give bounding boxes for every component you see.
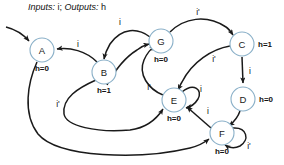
state-label-g: G xyxy=(157,36,164,47)
edge-c-to-e xyxy=(178,46,230,90)
edge-g-to-c xyxy=(170,19,233,35)
state-label-b: B xyxy=(101,67,107,78)
state-label-f: F xyxy=(219,128,225,139)
edge-label-c-to-d: i xyxy=(249,66,251,76)
edge-d-to-f xyxy=(229,111,240,126)
edge-g-to-b xyxy=(104,31,150,59)
edge-label-g-to-c: i' xyxy=(196,7,200,17)
fsm-canvas: i i i' i' i' i i i i' i' A h=0 B h=1 xyxy=(0,0,284,165)
state-node-a[interactable]: A h=0 xyxy=(30,38,54,73)
state-node-g[interactable]: G h=0 xyxy=(149,29,173,64)
edge-c-to-d xyxy=(242,57,243,83)
state-label-d: D xyxy=(240,94,247,105)
edge-b-to-a xyxy=(57,49,97,62)
state-node-b[interactable]: B h=1 xyxy=(92,60,116,95)
state-output-a: h=0 xyxy=(35,64,50,73)
state-node-c[interactable]: C h=1 xyxy=(230,32,273,56)
edge-label-g-to-b: i xyxy=(119,17,121,27)
edge-init-to-a xyxy=(6,27,29,41)
edge-label-e-to-g: i' xyxy=(147,82,151,92)
state-node-f[interactable]: F h=0 xyxy=(210,121,234,156)
state-output-g: h=0 xyxy=(154,55,169,64)
edge-label-e-self-loop: i xyxy=(200,84,202,94)
state-output-e: h=0 xyxy=(167,114,182,123)
state-output-f: h=0 xyxy=(215,147,230,156)
state-label-e: E xyxy=(171,95,177,106)
edge-label-f-self-loop: i' xyxy=(247,141,251,151)
state-label-c: C xyxy=(239,39,246,50)
state-node-d[interactable]: D h=0 xyxy=(231,87,274,111)
edge-label-b-to-a: i xyxy=(77,39,79,49)
state-output-c: h=1 xyxy=(258,40,273,49)
edge-label-c-to-e: i' xyxy=(212,54,216,64)
state-machine-diagram: Inputs: i; Outputs: h xyxy=(0,0,284,165)
state-output-d: h=0 xyxy=(259,95,274,104)
edge-label-b-to-e: i' xyxy=(56,99,60,109)
state-label-a: A xyxy=(39,45,46,56)
state-output-b: h=1 xyxy=(97,86,112,95)
state-node-e[interactable]: E h=0 xyxy=(162,88,186,123)
edge-label-f-to-e: i xyxy=(207,106,209,116)
